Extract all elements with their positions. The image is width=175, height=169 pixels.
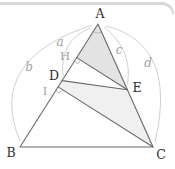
label-length-b: b [25, 60, 33, 74]
geometry-diagram: A B C D E H I a b c d [0, 0, 175, 169]
label-length-a: a [56, 35, 63, 49]
label-point-c: C [156, 147, 166, 162]
label-length-c: c [116, 43, 123, 57]
label-point-h: H [60, 49, 70, 63]
label-point-a: A [94, 6, 105, 21]
label-point-e: E [132, 80, 141, 95]
label-point-b: B [6, 145, 15, 160]
label-length-d: d [144, 56, 152, 70]
figure-canvas: A B C D E H I a b c d [0, 0, 175, 169]
label-point-i: I [43, 84, 48, 98]
label-point-d: D [49, 68, 59, 83]
